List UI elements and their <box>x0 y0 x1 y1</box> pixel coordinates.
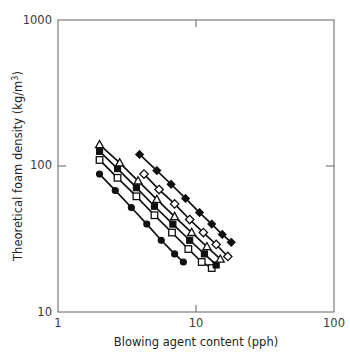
y-axis-title: Theoretical foam density (kg/m3) <box>11 71 25 262</box>
data-point-filled-square-marker <box>170 221 176 227</box>
data-point-filled-circle-marker <box>97 171 103 177</box>
data-point-filled-circle-marker <box>128 204 134 210</box>
data-point-filled-circle-marker <box>144 221 150 227</box>
x-axis-title: Blowing agent content (pph) <box>114 335 278 349</box>
x-tick-label-10: 10 <box>189 316 204 330</box>
data-point-open-square-marker <box>151 212 158 219</box>
y-axis-title-suffix: ) <box>11 71 25 76</box>
data-point-filled-circle-marker <box>112 187 118 193</box>
data-point-filled-circle-marker <box>172 251 178 257</box>
data-point-filled-square-marker <box>97 148 103 154</box>
x-tick-label-100: 100 <box>323 316 345 330</box>
data-point-filled-square-marker <box>151 203 157 209</box>
data-point-open-square-marker <box>185 246 192 253</box>
log-log-scatter-line-chart: 1000 100 10 1 10 100 Blowing agent conte… <box>0 0 350 356</box>
data-point-filled-square-marker <box>213 262 219 268</box>
data-point-filled-square-marker <box>133 185 139 191</box>
data-point-filled-square-marker <box>187 237 193 243</box>
data-point-open-square-marker <box>96 157 103 164</box>
data-point-filled-circle-marker <box>158 237 164 243</box>
data-point-open-square-marker <box>114 175 121 182</box>
y-tick-label-100: 100 <box>30 158 52 172</box>
data-point-open-square-marker <box>133 193 140 200</box>
data-point-filled-square-marker <box>201 251 207 257</box>
y-tick-label-1000: 1000 <box>23 13 52 27</box>
data-point-open-square-marker <box>198 259 205 266</box>
data-point-open-square-marker <box>169 229 176 236</box>
chart-background <box>0 0 350 356</box>
y-tick-label-10: 10 <box>37 305 52 319</box>
chart-figure: 1000 100 10 1 10 100 Blowing agent conte… <box>0 0 350 356</box>
y-axis-title-main: Theoretical foam density (kg/m <box>11 81 25 262</box>
x-tick-label-1: 1 <box>54 316 61 330</box>
data-point-filled-circle-marker <box>180 259 186 265</box>
